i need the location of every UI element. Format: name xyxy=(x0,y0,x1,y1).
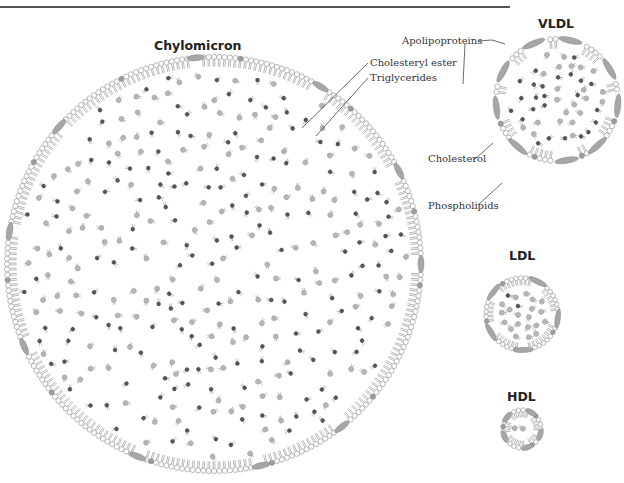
lipoprotein-illustration xyxy=(0,0,624,483)
ldl-phospholipid-tails xyxy=(488,280,555,347)
label-apolipoproteins: Apolipoproteins xyxy=(402,35,482,46)
chylomicron-core-lipids xyxy=(19,71,411,462)
hdl-core-lipids xyxy=(509,424,526,432)
label-cholesterol: Cholesterol xyxy=(428,153,486,164)
label-phospholipids: Phospholipids xyxy=(428,200,499,211)
label-cholesteryl-ester: Cholesteryl ester xyxy=(370,57,457,68)
vldl-title: VLDL xyxy=(538,16,574,31)
hdl-particle xyxy=(500,407,545,451)
chylomicron-particle xyxy=(4,54,424,474)
ldl-apolipoproteins xyxy=(484,275,562,353)
hdl-title: HDL xyxy=(507,389,536,404)
lipoprotein-diagram: Chylomicron VLDL LDL HDL Cholesteryl est… xyxy=(0,0,624,483)
vldl-core-lipids xyxy=(506,51,608,147)
ldl-title: LDL xyxy=(509,248,535,263)
ldl-particle xyxy=(484,275,562,353)
label-triglycerides: Triglycerides xyxy=(370,72,437,83)
chylomicron-title: Chylomicron xyxy=(154,38,241,53)
ldl-core-lipids xyxy=(498,291,550,341)
vldl-particle xyxy=(492,35,622,165)
